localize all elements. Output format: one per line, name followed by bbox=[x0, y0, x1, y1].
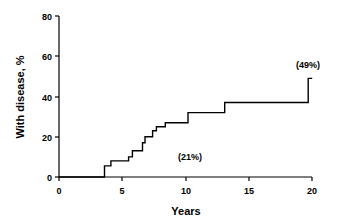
x-tick-15: 15 bbox=[244, 186, 254, 196]
y-tick-40: 40 bbox=[42, 93, 52, 103]
step-chart: 80 60 40 20 0 0 5 10 15 20 Years With di… bbox=[0, 0, 339, 224]
x-tick-5: 5 bbox=[119, 186, 124, 196]
y-tick-60: 60 bbox=[42, 52, 52, 62]
y-tick-20: 20 bbox=[42, 133, 52, 143]
annotation-21pct: (21%) bbox=[178, 152, 202, 162]
y-tick-80: 80 bbox=[42, 12, 52, 22]
y-axis-label: With disease, % bbox=[14, 55, 26, 138]
x-tick-0: 0 bbox=[56, 186, 61, 196]
y-tick-0: 0 bbox=[47, 173, 52, 183]
y-axis bbox=[55, 16, 59, 177]
x-tick-20: 20 bbox=[307, 186, 317, 196]
x-axis-label: Years bbox=[171, 205, 200, 217]
x-tick-10: 10 bbox=[181, 186, 191, 196]
annotation-49pct: (49%) bbox=[296, 60, 320, 70]
step-line bbox=[59, 78, 312, 177]
